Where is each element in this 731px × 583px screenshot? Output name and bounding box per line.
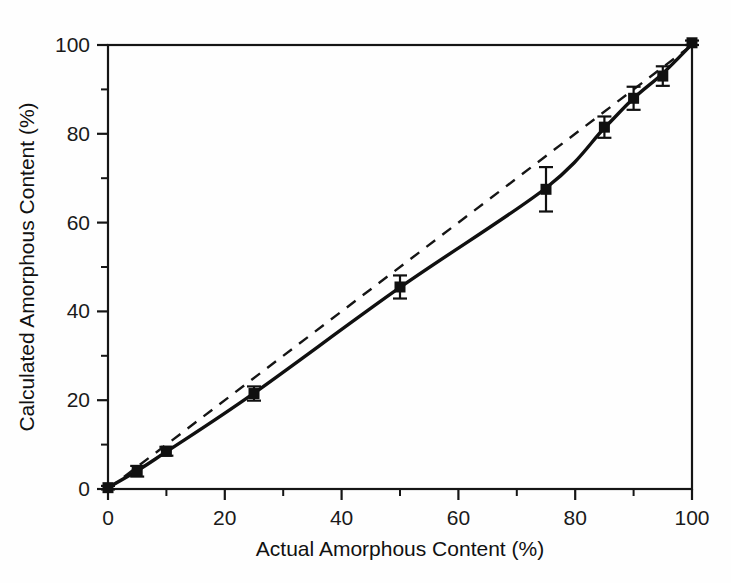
calibration-scatter-chart: 020406080100 020406080100 Actual Amorpho… bbox=[0, 0, 731, 583]
y-tick-label: 40 bbox=[67, 299, 90, 322]
x-tick-label: 40 bbox=[330, 506, 353, 529]
figure-canvas: 020406080100 020406080100 Actual Amorpho… bbox=[0, 0, 731, 583]
x-tick-label: 100 bbox=[674, 506, 709, 529]
y-axis-title: Calculated Amorphous Content (%) bbox=[15, 102, 38, 431]
data-point-marker bbox=[599, 122, 610, 133]
y-tick-label: 80 bbox=[67, 122, 90, 145]
x-tick-label: 20 bbox=[213, 506, 236, 529]
x-tick-label: 60 bbox=[447, 506, 470, 529]
x-tick-labels: 020406080100 bbox=[102, 506, 709, 529]
y-tick-label: 0 bbox=[78, 477, 90, 500]
x-axis-title: Actual Amorphous Content (%) bbox=[256, 537, 544, 560]
data-point-marker bbox=[541, 184, 552, 195]
data-point-marker bbox=[628, 93, 639, 104]
data-point-marker bbox=[395, 281, 406, 292]
data-point-marker bbox=[132, 466, 143, 477]
y-tick-labels: 020406080100 bbox=[55, 33, 90, 500]
y-tick-label: 100 bbox=[55, 33, 90, 56]
x-tick-label: 80 bbox=[564, 506, 587, 529]
data-point-marker bbox=[103, 482, 114, 493]
y-tick-label: 60 bbox=[67, 211, 90, 234]
one-to-one-reference-line bbox=[108, 45, 692, 489]
x-tick-label: 0 bbox=[102, 506, 114, 529]
data-point-marker bbox=[687, 37, 698, 48]
data-point-marker bbox=[249, 388, 260, 399]
data-point-marker bbox=[657, 71, 668, 82]
y-tick-label: 20 bbox=[67, 388, 90, 411]
data-point-marker bbox=[161, 446, 172, 457]
